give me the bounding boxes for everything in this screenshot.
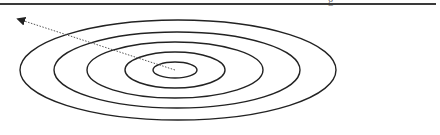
gae-reaching-out-line <box>18 19 175 125</box>
ohm-concentric-diagram: g <box>0 0 440 135</box>
ellipses-svg <box>0 0 440 135</box>
ring-5-ellipse <box>20 20 336 120</box>
